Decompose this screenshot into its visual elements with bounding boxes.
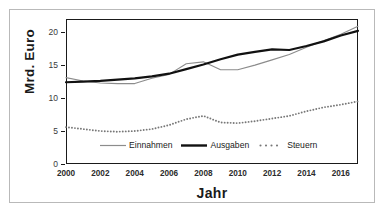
x-tick-label: 2014 — [289, 169, 323, 178]
x-tick-label: 2002 — [83, 169, 117, 178]
x-tick-label: 2016 — [324, 169, 358, 178]
x-tick-label: 2000 — [49, 169, 83, 178]
chart-legend: EinnahmenAusgabenSteuern — [100, 141, 317, 150]
series-steuern — [65, 101, 358, 133]
x-axis-title: Jahr — [66, 185, 358, 201]
x-tick-label: 2004 — [118, 169, 152, 178]
legend-label: Ausgaben — [210, 141, 249, 150]
chart-figure: Mrd. Euro 05101520 200020022004200620082… — [0, 0, 386, 220]
series-einnahmen — [66, 26, 358, 83]
legend-swatch-einnahmen-icon — [100, 141, 126, 150]
y-axis-title: Mrd. Euro — [22, 0, 37, 127]
legend-swatch-steuern-icon — [258, 141, 284, 150]
y-tick-mark — [61, 98, 65, 99]
y-tick-mark — [61, 131, 65, 132]
series-ausgaben — [66, 31, 358, 82]
y-tick-mark — [61, 65, 65, 66]
x-tick-label: 2008 — [186, 169, 220, 178]
y-tick-mark — [61, 32, 65, 33]
x-tick-label: 2010 — [221, 169, 255, 178]
legend-label: Steuern — [287, 141, 317, 150]
legend-item-einnahmen[interactable]: Einnahmen — [100, 141, 172, 150]
legend-label: Einnahmen — [129, 141, 172, 150]
y-tick-mark — [61, 164, 65, 165]
legend-item-ausgaben[interactable]: Ausgaben — [181, 141, 249, 150]
y-tick-label: 10 — [36, 93, 58, 103]
legend-swatch-ausgaben-icon — [181, 141, 207, 150]
y-tick-label: 15 — [36, 60, 58, 70]
legend-item-steuern[interactable]: Steuern — [258, 141, 317, 150]
y-tick-label: 20 — [36, 27, 58, 37]
y-tick-label: 0 — [36, 159, 58, 169]
x-tick-label: 2006 — [152, 169, 186, 178]
x-tick-label: 2012 — [255, 169, 289, 178]
y-tick-label: 5 — [36, 126, 58, 136]
